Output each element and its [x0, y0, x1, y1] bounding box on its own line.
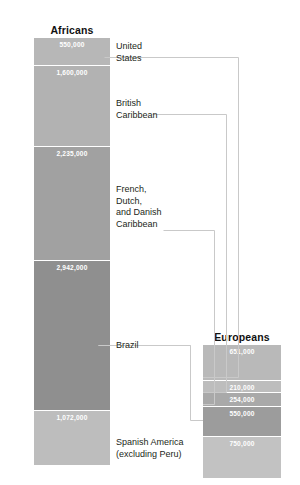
leader-line-brazil: [99, 346, 204, 421]
europeans-column-header: Europeans: [203, 331, 281, 343]
europeans-bar-column: 651,000 210,000 254,000 550,000 750,000: [203, 345, 281, 478]
africans-value-brazil: 2,942,000: [34, 264, 110, 272]
europeans-bar-spanish-america: 750,000: [203, 437, 281, 478]
europeans-value-french-dutch-danish-caribbean: 254,000: [203, 396, 281, 404]
africans-bar-column: 550,000 1,600,000 2,235,000 2,942,000 1,…: [34, 38, 110, 465]
category-label-french-dutch-danish-caribbean: French, Dutch, and Danish Caribbean: [116, 184, 162, 230]
africans-value-french-dutch-danish-caribbean: 2,235,000: [34, 150, 110, 158]
europeans-bar-british-caribbean: 210,000: [203, 381, 281, 393]
europeans-value-united-states: 651,000: [203, 348, 281, 356]
africans-bar-brazil: 2,942,000: [34, 261, 110, 411]
category-label-british-caribbean: British Caribbean: [116, 98, 158, 121]
africans-bar-british-caribbean: 1,600,000: [34, 66, 110, 147]
africans-column-header: Africans: [34, 24, 110, 36]
africans-bar-french-dutch-danish-caribbean: 2,235,000: [34, 147, 110, 261]
category-label-brazil: Brazil: [116, 340, 139, 352]
africans-bar-spanish-america: 1,072,000: [34, 411, 110, 465]
europeans-bar-united-states: 651,000: [203, 345, 281, 381]
europeans-value-brazil: 550,000: [203, 410, 281, 418]
category-label-united-states: United States: [116, 41, 142, 64]
europeans-bar-brazil: 550,000: [203, 407, 281, 437]
category-label-spanish-america: Spanish America (excluding Peru): [116, 437, 184, 460]
africans-value-united-states: 550,000: [34, 41, 110, 49]
africans-bar-united-states: 550,000: [34, 38, 110, 66]
europeans-bar-french-dutch-danish-caribbean: 254,000: [203, 393, 281, 407]
migration-comparison-figure: Africans 550,000 1,600,000 2,235,000 2,9…: [0, 0, 300, 485]
europeans-value-british-caribbean: 210,000: [203, 384, 281, 392]
europeans-value-spanish-america: 750,000: [203, 440, 281, 448]
africans-value-british-caribbean: 1,600,000: [34, 69, 110, 77]
africans-value-spanish-america: 1,072,000: [34, 414, 110, 422]
